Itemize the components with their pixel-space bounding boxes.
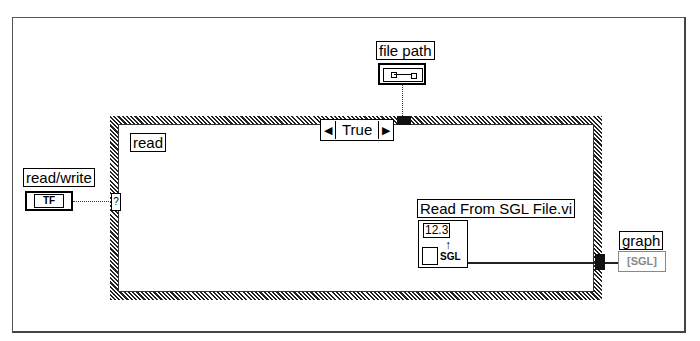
case-selector[interactable]: ◀ True ▶: [320, 119, 394, 141]
file-path-label: file path: [376, 41, 435, 60]
boolean-icon: TF: [34, 194, 64, 208]
graph-label: graph: [619, 231, 663, 250]
file-path-control[interactable]: [378, 63, 426, 85]
sgl-icon: SGL: [440, 251, 461, 262]
data-wire: [468, 262, 595, 264]
tunnel-in: [397, 116, 411, 125]
read-from-sgl-file-subvi[interactable]: 12.3 ↑ SGL: [418, 220, 468, 268]
arrow-icon: ↑: [445, 238, 451, 252]
tunnel-out: [595, 254, 605, 270]
increment-case-icon[interactable]: ▶: [379, 124, 393, 137]
graph-indicator[interactable]: [SGL]: [618, 251, 666, 272]
path-icon: [383, 68, 423, 82]
selector-terminal: ?: [111, 193, 121, 211]
case-frame-label: read: [130, 133, 166, 152]
subvi-label: Read From SGL File.vi: [417, 199, 575, 218]
decrement-case-icon[interactable]: ◀: [321, 124, 335, 137]
floppy-disk-icon: [422, 247, 438, 265]
read-write-wire: [73, 201, 111, 202]
case-value: True: [335, 121, 379, 139]
read-write-control[interactable]: TF: [25, 191, 73, 211]
numeric-icon: 12.3: [423, 223, 450, 238]
read-write-label: read/write: [23, 168, 95, 187]
